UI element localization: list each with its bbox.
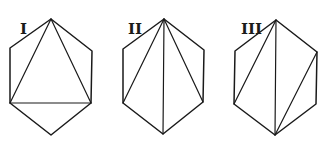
panel-label: I [20, 20, 27, 38]
hexagon-triangulation-figure: I II III [0, 0, 329, 147]
panel-i: I [10, 19, 92, 135]
diagonal-line [51, 19, 91, 103]
panel-label: III [241, 20, 262, 38]
diagonal-line [163, 19, 164, 134]
diagonal-line [164, 19, 203, 102]
diagonal-line [10, 19, 51, 103]
panel-iii: III [234, 20, 317, 135]
diagonal-line [275, 52, 317, 135]
panel-label: II [128, 20, 142, 38]
diagonal-line [275, 20, 276, 135]
panel-ii: II [123, 19, 204, 134]
